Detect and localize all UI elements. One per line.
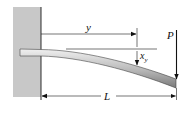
load-label: P [166, 29, 174, 41]
cantilever-diagram: y xy P L [0, 0, 189, 114]
deflection-label: xy [139, 50, 148, 64]
deflection-subscript: y [143, 56, 148, 64]
length-label: L [103, 90, 110, 102]
beam [20, 49, 176, 88]
y-label: y [85, 21, 91, 33]
